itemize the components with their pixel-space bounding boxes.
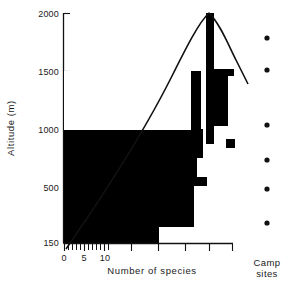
camp-site-dot-5 (264, 186, 269, 191)
y-tick-label-500: 500 (43, 183, 59, 193)
bar-upper-right-cap (214, 69, 234, 76)
figure-root: 2000 1500 1000 500 150 Altitude (m) (0, 0, 291, 289)
camp-sites-title-line1: Camp (254, 257, 281, 268)
y-axis: 2000 1500 1000 500 150 Altitude (m) (5, 9, 70, 248)
camp-sites-panel: Camp sites (254, 35, 281, 279)
y-axis-title: Altitude (m) (5, 100, 16, 156)
x-axis: 0 5 10 Number of species (61, 244, 233, 277)
species-bars (64, 13, 235, 243)
camp-site-dot-2 (264, 67, 269, 72)
camp-site-dot-1 (264, 35, 269, 40)
x-tick-label-10: 10 (100, 253, 110, 263)
bar-band-530-605 (64, 177, 207, 186)
bar-band-350-530 (64, 185, 194, 227)
x-tick-label-5: 5 (81, 253, 86, 263)
y-tick-label-2000: 2000 (38, 9, 59, 19)
bar-band-780-1000 (64, 129, 203, 158)
bar-band-1000-1500-narrow (191, 71, 201, 130)
camp-site-dot-6 (264, 220, 269, 225)
bar-tall-to-2000 (206, 13, 214, 144)
chart-canvas: 2000 1500 1000 500 150 Altitude (m) (0, 0, 291, 289)
y-tick-label-1000: 1000 (38, 125, 59, 135)
x-major-ticks (65, 244, 233, 252)
x-tick-label-0: 0 (61, 253, 66, 263)
x-minor-ticks (69, 244, 109, 251)
x-axis-title: Number of species (107, 265, 196, 276)
bar-band-150-350 (64, 226, 159, 243)
bar-band-605-780 (64, 157, 197, 178)
y-tick-label-150: 150 (43, 238, 59, 248)
bar-mask-upper (64, 71, 191, 130)
camp-site-dot-3 (264, 122, 269, 127)
camp-sites-title-line2: sites (256, 268, 278, 279)
bar-isolated-marker (226, 139, 235, 148)
y-tick-label-1500: 1500 (38, 67, 59, 77)
bar-upper-right-block (214, 69, 228, 126)
camp-site-dot-4 (264, 157, 269, 162)
